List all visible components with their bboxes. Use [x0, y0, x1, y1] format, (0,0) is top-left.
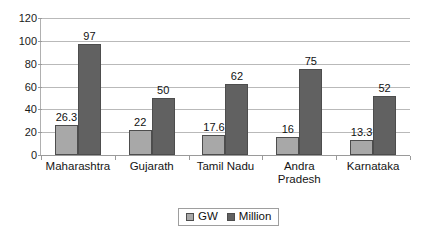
x-axis-category-label: Maharashtra [41, 160, 115, 173]
legend-swatch-icon [186, 213, 194, 221]
bar-value-label: 62 [216, 71, 257, 82]
bar-million-gujarath[interactable] [152, 98, 175, 155]
y-axis-tick-mark [38, 87, 42, 88]
bar-group: 1675 [262, 18, 336, 155]
bar-group: 17.662 [189, 18, 263, 155]
bar-million-karnataka[interactable] [373, 96, 396, 155]
bar-million-andra-pradesh[interactable] [299, 69, 322, 155]
bar-million-maharashtra[interactable] [78, 44, 101, 155]
bar-gw-gujarath[interactable] [129, 130, 152, 155]
y-axis: 020406080100120 [0, 0, 37, 233]
bar-gw-tamil-nadu[interactable] [202, 135, 225, 155]
y-axis-tick-mark [38, 41, 42, 42]
bar-value-label: 75 [290, 56, 331, 67]
x-axis-line [41, 155, 410, 156]
bar-group: 26.397 [41, 18, 115, 155]
legend-swatch-icon [227, 213, 235, 221]
y-axis-tick-mark [38, 64, 42, 65]
x-axis-category-label: Gujarath [115, 160, 189, 173]
x-axis-category-label: Tamil Nadu [189, 160, 263, 173]
plot-area: 26.397225017.662167513.352 [41, 18, 410, 155]
y-axis-tick-label: 80 [3, 58, 37, 69]
bar-value-label: 97 [69, 31, 110, 42]
bar-gw-andra-pradesh[interactable] [276, 137, 299, 155]
y-axis-tick-mark [38, 18, 42, 19]
bar-million-tamil-nadu[interactable] [225, 84, 248, 155]
x-axis-category-label: Andra Pradesh [262, 160, 336, 186]
y-axis-tick-label: 120 [3, 13, 37, 24]
legend-label: Million [239, 211, 272, 223]
bar-chart: 020406080100120 26.397225017.662167513.3… [0, 0, 426, 233]
y-axis-tick-label: 20 [3, 127, 37, 138]
legend-item-million[interactable]: Million [227, 211, 272, 223]
bar-group: 2250 [115, 18, 189, 155]
y-axis-tick-label: 0 [3, 150, 37, 161]
y-axis-tick-mark [38, 132, 42, 133]
legend-label: GW [198, 211, 218, 223]
bar-value-label: 52 [364, 83, 405, 94]
y-axis-tick-label: 60 [3, 81, 37, 92]
legend-item-gw[interactable]: GW [186, 211, 218, 223]
y-axis-tick-label: 40 [3, 104, 37, 115]
bar-gw-maharashtra[interactable] [55, 125, 78, 155]
y-axis-tick-label: 100 [3, 35, 37, 46]
bar-value-label: 50 [143, 85, 184, 96]
y-axis-tick-mark [38, 109, 42, 110]
x-axis-tick-mark [410, 156, 411, 160]
x-axis-category-label: Karnataka [336, 160, 410, 173]
chart-legend: GWMillion [178, 208, 279, 226]
bar-group: 13.352 [336, 18, 410, 155]
bar-gw-karnataka[interactable] [350, 140, 373, 155]
